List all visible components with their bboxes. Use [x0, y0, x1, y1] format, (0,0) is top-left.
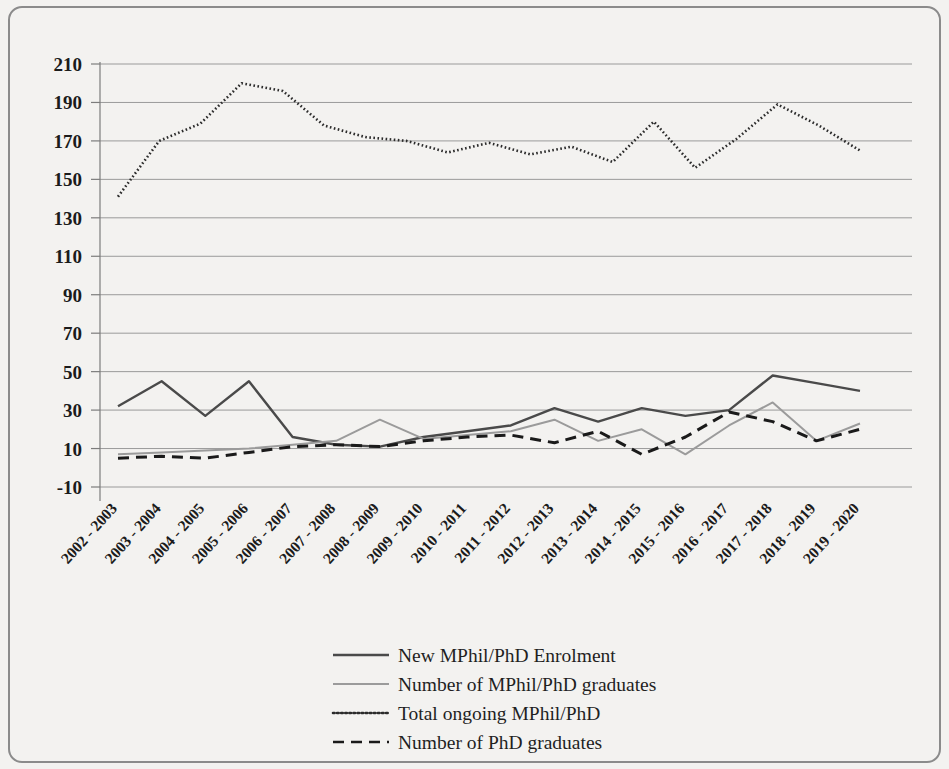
y-tick-label: 10: [63, 439, 82, 460]
y-tick-label: 70: [63, 323, 82, 344]
legend-label: Number of PhD graduates: [398, 732, 602, 753]
legend-label: New MPhil/PhD Enrolment: [398, 645, 616, 666]
legend-label: Total ongoing MPhil/PhD: [398, 703, 600, 724]
x-tick-labels-group: 2002 - 20032003 - 20042004 - 20052005 - …: [57, 499, 862, 566]
y-tick-label: 150: [54, 169, 83, 190]
chart-page: 2101901701501301109070503010-10 2002 - 2…: [0, 0, 949, 769]
y-tick-label: 110: [55, 246, 82, 267]
gridlines-group: [100, 64, 912, 487]
series-line: [118, 412, 860, 458]
y-tick-label: 30: [63, 400, 82, 421]
y-tick-label: -10: [57, 477, 82, 498]
series-line: [118, 375, 860, 446]
line-chart: 2101901701501301109070503010-10 2002 - 2…: [0, 0, 949, 769]
y-tick-label: 90: [63, 285, 82, 306]
chart-legend: New MPhil/PhD EnrolmentNumber of MPhil/P…: [333, 645, 656, 753]
y-tick-label: 130: [54, 208, 83, 229]
y-tick-labels-group: 2101901701501301109070503010-10: [54, 54, 83, 498]
y-axis-group: [91, 62, 100, 501]
y-tick-label: 190: [54, 92, 83, 113]
y-tick-label: 50: [63, 362, 82, 383]
data-series-group: [118, 83, 860, 458]
y-tick-label: 210: [54, 54, 83, 75]
y-tick-label: 170: [54, 131, 83, 152]
legend-label: Number of MPhil/PhD graduates: [398, 674, 656, 695]
